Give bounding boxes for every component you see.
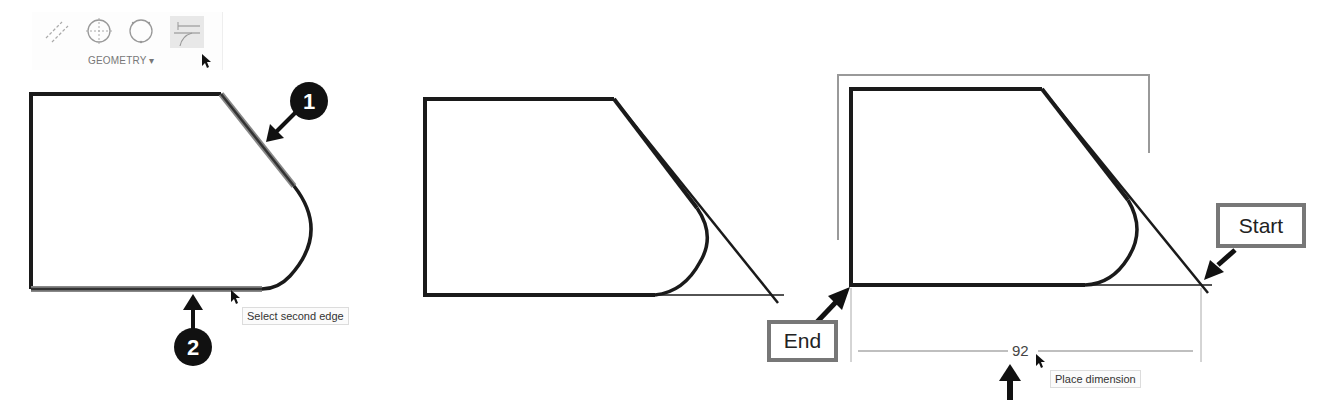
sketch-canvas[interactable]: 1 2 bbox=[0, 0, 1323, 402]
cursor-icon bbox=[202, 54, 211, 68]
place-dimension-tooltip: Place dimension bbox=[1050, 370, 1141, 388]
panel2-sketch bbox=[425, 99, 784, 303]
end-label: End bbox=[767, 320, 838, 362]
callout-badge-1: 1 bbox=[290, 82, 328, 120]
start-label: Start bbox=[1216, 203, 1306, 248]
select-second-edge-tooltip: Select second edge bbox=[242, 307, 349, 325]
svg-text:1: 1 bbox=[303, 89, 315, 114]
dimension-value[interactable]: 92 bbox=[1010, 342, 1031, 359]
panel1-sketch bbox=[31, 94, 311, 330]
selection-bracket bbox=[838, 75, 1149, 240]
callout-badge-2: 2 bbox=[174, 328, 212, 366]
svg-text:2: 2 bbox=[187, 335, 199, 360]
